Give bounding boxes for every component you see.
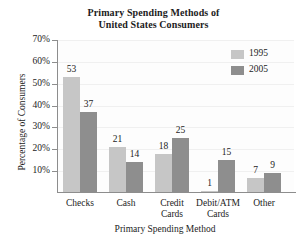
bar-2005-cash — [126, 162, 143, 193]
bar-value-label: 53 — [59, 65, 84, 75]
bar-value-label: 25 — [168, 126, 193, 136]
legend-label-1995: 1995 — [249, 49, 268, 59]
y-axis-tick-label: 60% — [4, 57, 50, 67]
bar-2005-checks — [80, 112, 97, 193]
x-axis-category-line: Other — [238, 198, 290, 209]
x-axis-category-line: Cards — [146, 209, 198, 220]
bar-1995-checks — [63, 77, 80, 193]
y-axis-tick-label: 50% — [4, 79, 50, 89]
y-axis-tick-mark — [52, 62, 57, 63]
bar-value-label: 37 — [76, 100, 101, 110]
legend-item-1995[interactable]: 1995 — [231, 48, 268, 60]
bar-1995-other — [247, 178, 264, 193]
legend-swatch-2005 — [231, 66, 244, 75]
x-axis-category-line: Cards — [192, 209, 244, 220]
y-axis-tick-mark — [52, 171, 57, 172]
x-axis-category-label: Cash — [100, 198, 152, 209]
x-axis-category-label: CreditCards — [146, 198, 198, 219]
gridline — [57, 40, 294, 41]
y-axis-tick-mark — [52, 149, 57, 150]
y-axis-tick-label: 30% — [4, 122, 50, 132]
x-axis-line — [57, 192, 296, 193]
x-axis-category-label: Debit/ATMCards — [192, 198, 244, 219]
y-axis-tick-mark — [52, 40, 57, 41]
legend-swatch-1995 — [231, 50, 244, 59]
legend-item-2005[interactable]: 2005 — [231, 64, 268, 76]
y-axis-tick-label: 70% — [4, 35, 50, 45]
y-axis-tick-mark — [52, 106, 57, 107]
legend-label-2005: 2005 — [249, 65, 268, 75]
chart-figure: Primary Spending Methods of United State… — [0, 0, 307, 245]
y-axis-line — [57, 40, 58, 193]
bar-value-label: 21 — [105, 135, 130, 145]
x-axis-category-line: Checks — [54, 198, 106, 209]
y-axis-tick-labels: 70%60%50%40%30%20%10% — [0, 0, 50, 245]
x-axis-category-label: Other — [238, 198, 290, 209]
bar-2005-other — [264, 173, 281, 193]
chart-legend: 1995 2005 — [231, 48, 268, 80]
x-axis-category-line: Cash — [100, 198, 152, 209]
gridline — [57, 84, 294, 85]
y-axis-tick-mark — [52, 84, 57, 85]
bar-value-label: 9 — [260, 161, 285, 171]
x-axis-category-label: Checks — [54, 198, 106, 209]
y-axis-tick-mark — [52, 127, 57, 128]
y-axis-tick-label: 10% — [4, 166, 50, 176]
x-axis-category-line: Debit/ATM — [192, 198, 244, 209]
bar-value-label: 15 — [214, 148, 239, 158]
bar-2005-credit-cards — [172, 138, 189, 193]
y-axis-tick-label: 40% — [4, 101, 50, 111]
bar-2005-debit-atm-cards — [218, 160, 235, 193]
bar-value-label: 14 — [122, 150, 147, 160]
y-axis-tick-label: 20% — [4, 144, 50, 154]
bar-1995-credit-cards — [155, 154, 172, 193]
x-axis-category-line: Credit — [146, 198, 198, 209]
x-axis-title: Primary Spending Method — [40, 224, 290, 234]
